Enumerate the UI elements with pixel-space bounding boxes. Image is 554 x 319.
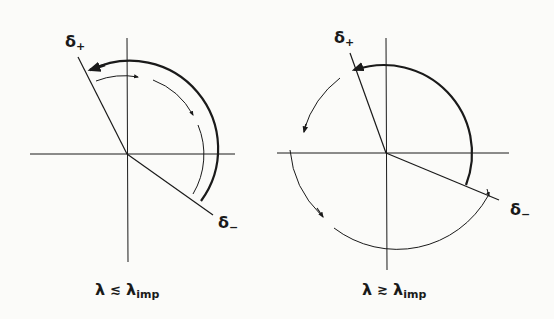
lambda-imp: λ bbox=[126, 280, 136, 299]
right-delta-minus-line bbox=[386, 153, 499, 200]
subscript-imp: imp bbox=[403, 288, 426, 301]
left-inner-arc-seg1 bbox=[96, 76, 138, 81]
subscript-imp: imp bbox=[136, 288, 159, 301]
left-delta-plus-label: δ+ bbox=[65, 32, 85, 53]
subscript-plus: + bbox=[345, 36, 354, 49]
subscript-minus: − bbox=[521, 208, 530, 221]
left-caption: λ≲λimp bbox=[95, 280, 159, 301]
lambda: λ bbox=[95, 280, 105, 299]
delta-symbol: δ bbox=[218, 213, 229, 232]
subscript-minus: − bbox=[229, 221, 238, 234]
left-inner-arc-seg2 bbox=[153, 80, 193, 115]
right-delta-minus-label: δ− bbox=[510, 200, 530, 221]
lambda: λ bbox=[362, 280, 372, 299]
subscript-plus: + bbox=[76, 40, 85, 53]
delta-symbol: δ bbox=[334, 28, 345, 47]
delta-symbol: δ bbox=[510, 200, 521, 219]
left-inner-arc-seg3 bbox=[193, 125, 204, 194]
right-thin-arrowhead-left bbox=[304, 124, 306, 132]
left-delta-minus-line bbox=[127, 154, 213, 215]
right-delta-plus-line bbox=[350, 53, 386, 153]
right-panel bbox=[277, 38, 509, 270]
left-outer-arrowhead bbox=[90, 65, 105, 70]
right-thick-arc bbox=[355, 65, 472, 185]
right-thin-arc-seg3 bbox=[304, 78, 340, 130]
delta-symbol: δ bbox=[65, 32, 76, 51]
left-delta-plus-line bbox=[78, 57, 127, 154]
lambda-imp: λ bbox=[393, 280, 403, 299]
left-delta-minus-label: δ− bbox=[218, 213, 238, 234]
relation-symbol: ≳ bbox=[377, 282, 388, 297]
left-vertical-axis bbox=[127, 38, 128, 262]
right-thin-arc-seg2 bbox=[290, 150, 321, 215]
right-thin-arc-seg1 bbox=[334, 196, 488, 249]
left-panel bbox=[30, 38, 235, 262]
relation-symbol: ≲ bbox=[110, 282, 121, 297]
right-caption: λ≳λimp bbox=[362, 280, 426, 301]
right-delta-plus-label: δ+ bbox=[334, 28, 354, 49]
